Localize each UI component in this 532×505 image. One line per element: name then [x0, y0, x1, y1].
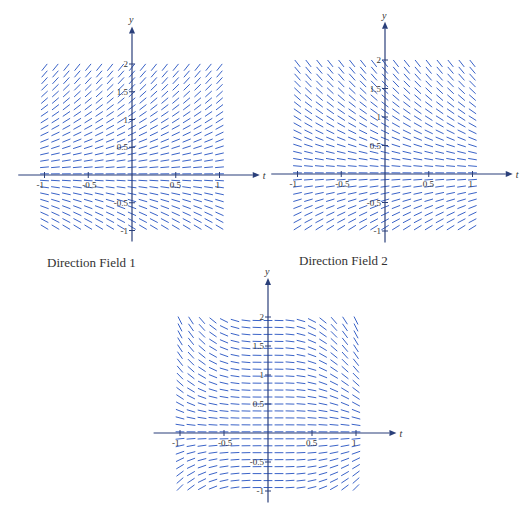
- y-axis-arrow-icon: [129, 26, 135, 33]
- x-tick-label: 0.5: [306, 438, 318, 448]
- y-tick-label: 1.5: [253, 341, 265, 351]
- y-axis-label: y: [381, 10, 387, 21]
- direction-field-1: ty-1-0.50.5121.510.5-0.5-1: [18, 14, 266, 241]
- y-tick-label: 2: [124, 59, 129, 69]
- y-tick-label: -1: [374, 226, 382, 236]
- x-tick-label: -0.5: [82, 180, 97, 190]
- x-tick-label: 0.5: [170, 180, 182, 190]
- y-tick-label: -1: [121, 226, 129, 236]
- y-axis-arrow-icon: [382, 22, 388, 29]
- y-axis-arrow-icon: [265, 278, 271, 285]
- direction-field-3: ty-1-0.50.5121.510.5-0.5-1: [154, 266, 403, 503]
- x-tick-label: 1: [216, 180, 221, 190]
- x-axis-label: t: [516, 169, 519, 180]
- y-tick-label: 1: [124, 115, 129, 125]
- caption-direction-field-1: Direction Field 1: [47, 255, 136, 271]
- x-axis-arrow-icon: [506, 171, 513, 177]
- y-axis-label: y: [128, 14, 134, 25]
- y-tick-label: -1: [257, 486, 265, 496]
- y-tick-label: 2: [377, 55, 382, 65]
- y-tick-label: 0.5: [370, 141, 382, 151]
- x-tick-label: 1: [469, 179, 474, 189]
- y-tick-label: 1: [377, 112, 382, 122]
- direction-fields-canvas: ty-1-0.50.5121.510.5-0.5-1ty-1-0.50.5121…: [0, 0, 532, 505]
- x-axis-label: t: [263, 170, 266, 181]
- y-tick-label: 2: [260, 312, 265, 322]
- y-tick-label: 0.5: [117, 142, 129, 152]
- x-tick-label: 1: [352, 438, 357, 448]
- x-tick-label: -1: [37, 180, 45, 190]
- y-tick-label: 1.5: [117, 87, 129, 97]
- x-tick-label: -1: [290, 179, 298, 189]
- y-tick-label: 0.5: [253, 399, 265, 409]
- x-tick-label: -0.5: [335, 179, 350, 189]
- direction-field-2: ty-1-0.50.5121.510.5-0.5-1: [271, 10, 519, 243]
- y-tick-label: -0.5: [250, 457, 265, 467]
- y-tick-label: -0.5: [114, 198, 129, 208]
- caption-direction-field-2: Direction Field 2: [299, 253, 388, 269]
- y-tick-label: 1: [260, 370, 265, 380]
- x-tick-label: -0.5: [218, 438, 233, 448]
- y-axis-label: y: [264, 266, 270, 277]
- x-axis-label: t: [399, 428, 402, 439]
- x-tick-label: 0.5: [423, 179, 435, 189]
- x-axis-arrow-icon: [389, 430, 396, 436]
- y-tick-label: 1.5: [370, 84, 382, 94]
- x-axis-arrow-icon: [253, 172, 260, 178]
- y-tick-label: -0.5: [367, 198, 382, 208]
- x-tick-label: -1: [172, 438, 180, 448]
